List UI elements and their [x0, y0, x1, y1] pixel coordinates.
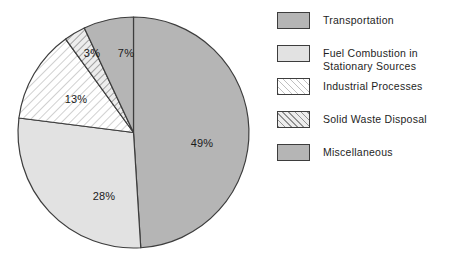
- legend-swatch-transportation: [277, 12, 310, 29]
- slice-value-industrial-processes: 13%: [65, 93, 88, 105]
- pie-chart-figure: 49% 28% 13% 3% 7% TransportationFuel Com…: [0, 0, 450, 266]
- legend-swatch-fuel-combustion-in-stationary-sources: [277, 45, 310, 62]
- legend-swatch-solid-waste-disposal: [277, 111, 310, 128]
- legend-item-miscellaneous[interactable]: Miscellaneous: [277, 144, 393, 164]
- legend-item-transportation[interactable]: Transportation: [277, 12, 394, 32]
- slice-value-miscellaneous: 7%: [118, 47, 134, 59]
- legend-label-transportation: Transportation: [323, 12, 394, 27]
- legend-item-solid-waste-disposal[interactable]: Solid Waste Disposal: [277, 111, 427, 131]
- pie-slice: [18, 118, 141, 248]
- legend-label-industrial-processes: Industrial Processes: [323, 78, 423, 93]
- legend-swatch-miscellaneous: [277, 144, 310, 161]
- chart-legend: TransportationFuel Combustion in Station…: [277, 12, 447, 192]
- legend-label-miscellaneous: Miscellaneous: [323, 144, 393, 159]
- legend-label-solid-waste-disposal: Solid Waste Disposal: [323, 111, 427, 126]
- legend-label-fuel-combustion-in-stationary-sources: Fuel Combustion in Stationary Sources: [323, 45, 418, 72]
- slice-value-fuel-combustion: 28%: [93, 190, 116, 202]
- pie-chart: 49% 28% 13% 3% 7%: [12, 10, 257, 258]
- slice-value-solid-waste-disposal: 3%: [84, 47, 100, 59]
- pie-svg: [12, 10, 257, 258]
- legend-item-industrial-processes[interactable]: Industrial Processes: [277, 78, 423, 98]
- pie-slice: [134, 17, 249, 248]
- legend-swatch-industrial-processes: [277, 78, 310, 95]
- slice-value-transportation: 49%: [191, 137, 214, 149]
- legend-item-fuel-combustion-in-stationary-sources[interactable]: Fuel Combustion in Stationary Sources: [277, 45, 418, 65]
